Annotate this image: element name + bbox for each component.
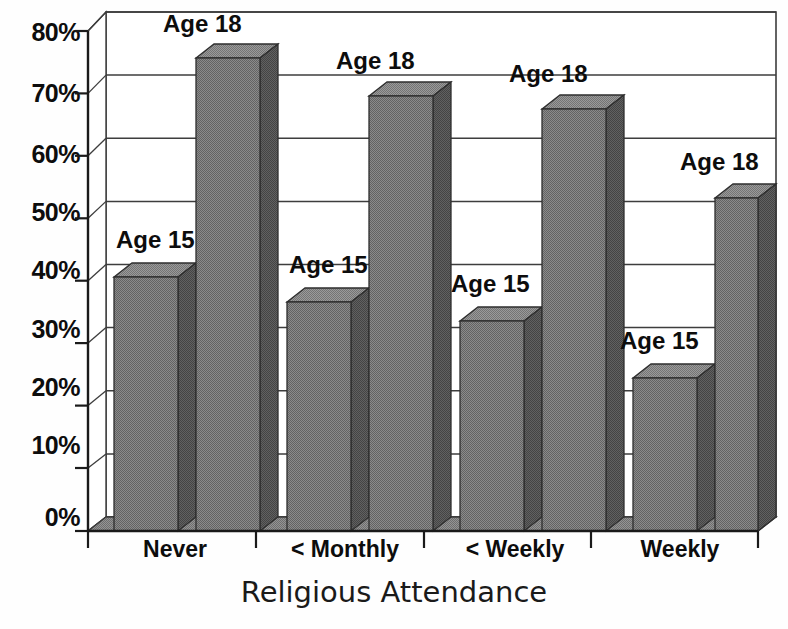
bar-label-monthly-age15: Age 15: [289, 253, 368, 277]
chart-container: 80% 70% 60% 50% 40% 30% 20% 10% 0%: [0, 0, 788, 629]
bar-label-ltweekly-age18: Age 18: [509, 62, 588, 86]
bar-ltweekly-age18[interactable]: [542, 95, 624, 531]
x-tick-weekly: Weekly: [610, 538, 750, 561]
y-axis-ticks: [75, 31, 88, 531]
bar-never-age18[interactable]: [196, 44, 278, 531]
bar-label-monthly-age18: Age 18: [336, 49, 415, 73]
bar-ltweekly-age15[interactable]: [460, 307, 542, 531]
bar-label-never-age18: Age 18: [163, 12, 242, 36]
bar-never-age15[interactable]: [114, 263, 196, 531]
plot-area: [0, 0, 788, 629]
x-axis-title: Religious Attendance: [0, 578, 788, 607]
bar-label-never-age15: Age 15: [116, 228, 195, 252]
bar-monthly-age18[interactable]: [369, 82, 451, 531]
left-depth-wall: [88, 12, 106, 531]
x-tick-ltweekly: < Weekly: [440, 538, 590, 561]
bar-label-ltweekly-age15: Age 15: [451, 272, 530, 296]
x-tick-monthly: < Monthly: [265, 538, 425, 561]
bar-label-weekly-age15: Age 15: [620, 329, 699, 353]
bar-weekly-age18[interactable]: [715, 184, 776, 531]
x-tick-never: Never: [110, 538, 240, 561]
bar-monthly-age15[interactable]: [287, 288, 369, 531]
bar-weekly-age15[interactable]: [633, 364, 715, 531]
bar-label-weekly-age18: Age 18: [680, 150, 759, 174]
